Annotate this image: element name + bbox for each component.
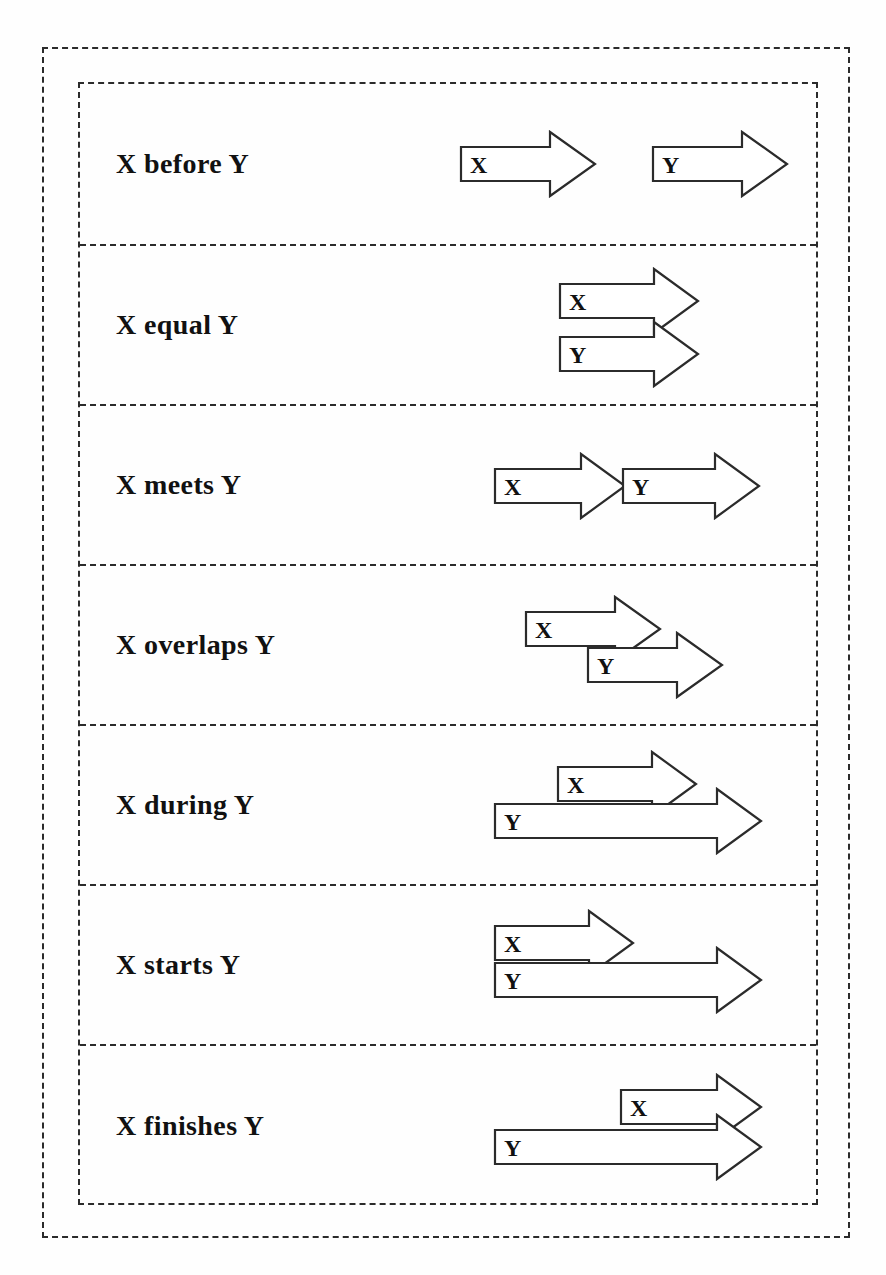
arrow-x-letter-meets: X <box>504 475 521 499</box>
arrow-area-during: X Y <box>460 726 806 884</box>
arrow-y-overlaps: Y <box>587 632 723 698</box>
arrow-x-letter-overlaps: X <box>535 618 552 642</box>
arrow-area-finishes: X Y <box>460 1046 806 1205</box>
arrow-y-starts: Y <box>494 947 762 1013</box>
relation-label-equal: X equal Y <box>116 309 238 341</box>
relation-row-overlaps: X overlaps Y X Y <box>80 564 816 724</box>
relation-row-before: X before Y X Y <box>80 84 816 244</box>
arrow-area-starts: X Y <box>460 886 806 1044</box>
arrow-y-letter-equal: Y <box>569 343 586 367</box>
arrow-y-letter-during: Y <box>504 810 521 834</box>
relation-label-meets: X meets Y <box>116 469 241 501</box>
relation-label-during: X during Y <box>116 789 254 821</box>
arrow-area-before: X Y <box>460 84 806 244</box>
arrow-area-meets: X Y <box>460 406 806 564</box>
arrow-y-during: Y <box>494 788 762 854</box>
arrow-y-letter-finishes: Y <box>504 1136 521 1160</box>
arrow-x-letter-before: X <box>470 153 487 177</box>
arrow-y-letter-overlaps: Y <box>597 654 614 678</box>
arrow-area-overlaps: X Y <box>460 566 806 724</box>
arrow-y-finishes: Y <box>494 1114 762 1180</box>
relation-label-starts: X starts Y <box>116 949 240 981</box>
arrow-y-equal: Y <box>559 321 699 387</box>
relation-row-starts: X starts Y X Y <box>80 884 816 1044</box>
arrow-area-equal: X Y <box>460 246 806 404</box>
arrow-y-letter-starts: Y <box>504 969 521 993</box>
relation-row-meets: X meets Y X Y <box>80 404 816 564</box>
inner-dashed-frame: X before Y X Y X equal Y <box>78 82 818 1205</box>
arrow-x-meets: X <box>494 453 626 519</box>
arrow-y-letter-meets: Y <box>632 475 649 499</box>
relation-label-overlaps: X overlaps Y <box>116 629 275 661</box>
arrow-y-meets: Y <box>622 453 760 519</box>
arrow-x-letter-equal: X <box>569 290 586 314</box>
arrow-y-letter-before: Y <box>662 153 679 177</box>
relation-row-equal: X equal Y X Y <box>80 244 816 404</box>
relation-label-finishes: X finishes Y <box>116 1110 264 1142</box>
arrow-x-before: X <box>460 131 596 197</box>
relation-label-before: X before Y <box>116 148 249 180</box>
relation-row-during: X during Y X Y <box>80 724 816 884</box>
arrow-y-before: Y <box>652 131 788 197</box>
relation-row-finishes: X finishes Y X Y <box>80 1044 816 1205</box>
